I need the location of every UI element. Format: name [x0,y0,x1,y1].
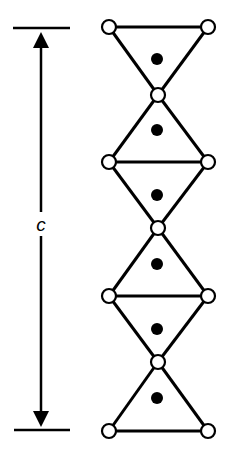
anion-node [102,424,116,438]
triangle-side-edge [158,296,208,362]
cation-dot [151,124,163,136]
cation-dot [151,258,163,270]
arrow-down-icon [33,411,49,427]
cation-dot [151,189,163,201]
triangle-side-edge [158,362,208,431]
triangle-side-edge [158,162,208,228]
anion-node [102,289,116,303]
triangle-side-edge [109,228,158,296]
anion-node [201,424,215,438]
triangle-side-edge [109,362,158,431]
triangle-side-edge [109,95,158,162]
triangle-side-edge [158,228,208,296]
cation-dot [151,53,163,65]
triangle-side-edge [158,95,208,162]
cation-dot [151,392,163,404]
anion-node [151,355,165,369]
triangle-side-edge [158,27,208,95]
triangle-chain [102,20,215,438]
arrow-up-icon [33,32,49,48]
anion-node [102,155,116,169]
anion-node [201,289,215,303]
anion-node [151,88,165,102]
cation-dot [151,323,163,335]
dimension-label-c: c [36,214,46,235]
triangle-side-edge [109,162,158,228]
triangle-side-edge [109,27,158,95]
anion-node [201,155,215,169]
triangle-chain-diagram: c [0,0,233,456]
triangle-side-edge [109,296,158,362]
anion-node [151,221,165,235]
anion-node [201,20,215,34]
anion-node [102,20,116,34]
